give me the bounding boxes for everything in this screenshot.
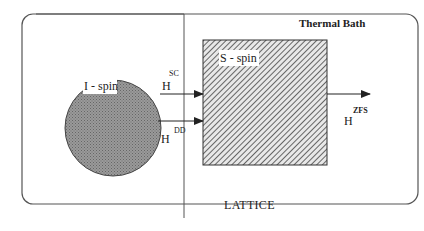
h-dd-sup: DD	[174, 127, 186, 135]
h-zfs-base: H	[344, 115, 353, 127]
diagram-canvas	[0, 0, 424, 231]
s-spin-label: S - spin	[220, 52, 257, 64]
lattice-label: LATTICE	[224, 199, 275, 211]
h-dd-base: H	[161, 133, 170, 145]
h-sc-base: H	[162, 80, 171, 92]
thermal-bath-label: Thermal Bath	[299, 18, 365, 29]
i-spin-circle	[65, 80, 161, 176]
i-spin-label: I - spin	[84, 80, 118, 92]
h-zfs-sup: ZFS	[353, 107, 368, 115]
h-sc-sup: SC	[169, 70, 179, 78]
